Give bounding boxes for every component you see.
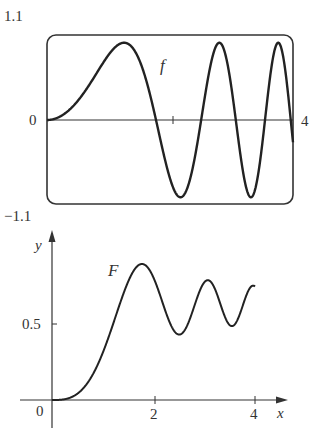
top-plot: 1.1 −1.1 0 4 f xyxy=(4,8,309,224)
y-axis-arrow-icon xyxy=(49,230,56,242)
x-tick-label-4: 4 xyxy=(250,406,258,422)
y-min-label: −1.1 xyxy=(4,208,31,224)
curve-label-f: f xyxy=(160,56,167,75)
x-axis-label: x xyxy=(276,405,284,421)
origin-label: 0 xyxy=(29,112,37,128)
x-tick-label-2: 2 xyxy=(150,406,158,422)
figure: 1.1 −1.1 0 4 f y x 0 0.5 2 4 F xyxy=(0,0,319,447)
x-max-label: 4 xyxy=(301,113,309,129)
y-axis-label: y xyxy=(33,237,42,253)
origin-label: 0 xyxy=(36,403,44,419)
curve-F xyxy=(52,264,255,400)
y-tick-label-0.5: 0.5 xyxy=(22,316,41,332)
bottom-plot: y x 0 0.5 2 4 F xyxy=(20,230,288,428)
curve-label-F: F xyxy=(107,261,119,280)
y-max-label: 1.1 xyxy=(4,8,23,24)
x-axis-arrow-icon xyxy=(276,397,288,404)
